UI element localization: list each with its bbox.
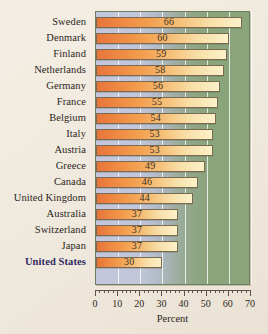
major-tick [161,290,162,296]
major-tick [206,290,207,296]
bar-row: 60 [96,33,229,44]
category-label: Canada [0,176,90,187]
bar-row: 59 [96,49,227,60]
category-label: Austria [0,144,90,155]
bar-value-label: 59 [97,49,226,59]
bar-value-label: 37 [97,209,177,219]
minor-tick [215,290,216,293]
category-label: France [0,96,90,107]
bar-row: 53 [96,145,213,156]
bar-value-label: 54 [97,113,215,123]
category-label: Switzerland [0,224,90,235]
plot-area: 66605958565554535349464437373730 [95,11,250,285]
bar-value-label: 44 [97,193,192,203]
major-tick [228,290,229,296]
bar-row: 49 [96,161,205,172]
minor-tick [223,290,224,293]
bar-row: 37 [96,241,178,252]
minor-tick [99,290,100,293]
category-label: Finland [0,48,90,59]
gridline [251,12,252,284]
x-tick-label: 10 [112,298,122,310]
bar: 59 [96,49,227,60]
x-axis-title: Percent [95,313,250,324]
minor-tick [148,290,149,293]
x-axis-tick-labels: 010203040506070 [95,298,250,312]
minor-tick [179,290,180,293]
bar-value-label: 37 [97,225,177,235]
bar-value-label: 56 [97,81,219,91]
x-tick-label: 30 [156,298,166,310]
bar: 46 [96,177,198,188]
bar: 60 [96,33,229,44]
minor-tick [108,290,109,293]
minor-tick [219,290,220,293]
category-label: Italy [0,128,90,139]
major-tick [117,290,118,296]
minor-tick [175,290,176,293]
bar-row: 54 [96,113,216,124]
major-tick [95,290,96,296]
minor-tick [246,290,247,293]
bar: 53 [96,129,213,140]
minor-tick [166,290,167,293]
bar: 49 [96,161,205,172]
minor-tick [122,290,123,293]
minor-tick [232,290,233,293]
bar-value-label: 60 [97,33,228,43]
minor-tick [237,290,238,293]
minor-tick [104,290,105,293]
bar: 56 [96,81,220,92]
bar-value-label: 46 [97,177,197,187]
bar-row: 44 [96,193,193,204]
minor-tick [170,290,171,293]
bar-row: 53 [96,129,213,140]
category-label: Japan [0,240,90,251]
major-tick [184,290,185,296]
category-label: Greece [0,160,90,171]
minor-tick [197,290,198,293]
major-tick [139,290,140,296]
bar: 44 [96,193,193,204]
bars-layer: 66605958565554535349464437373730 [96,12,249,284]
bar-value-label: 53 [97,145,212,155]
minor-tick [210,290,211,293]
minor-tick [157,290,158,293]
category-label: Australia [0,208,90,219]
minor-tick [201,290,202,293]
bar-row: 56 [96,81,220,92]
bar: 37 [96,241,178,252]
bar-value-label: 53 [97,129,212,139]
bar: 55 [96,97,218,108]
x-tick-label: 40 [179,298,189,310]
minor-tick [144,290,145,293]
bar-value-label: 58 [97,65,223,75]
x-tick-label: 60 [223,298,233,310]
bar: 66 [96,17,242,28]
bar-row: 37 [96,209,178,220]
category-label: United Kingdom [0,192,90,203]
bar: 53 [96,145,213,156]
minor-tick [113,290,114,293]
x-tick-label: 50 [201,298,211,310]
minor-tick [153,290,154,293]
bar-value-label: 49 [97,161,204,171]
minor-tick [241,290,242,293]
category-label: Netherlands [0,64,90,75]
bar-row: 66 [96,17,242,28]
minor-tick [188,290,189,293]
x-tick-label: 70 [245,298,255,310]
bar: 54 [96,113,216,124]
bar: 30 [96,257,162,268]
category-label: Sweden [0,16,90,27]
bar-value-label: 66 [97,17,241,27]
category-axis-labels: SwedenDenmarkFinlandNetherlandsGermanyFr… [0,16,90,272]
bar-row: 55 [96,97,218,108]
category-label: Belgium [0,112,90,123]
major-tick [250,290,251,296]
bar-row: 37 [96,225,178,236]
bar-value-label: 37 [97,241,177,251]
bar: 37 [96,225,178,236]
x-tick-label: 0 [93,298,98,310]
x-axis-ticks [95,290,250,296]
